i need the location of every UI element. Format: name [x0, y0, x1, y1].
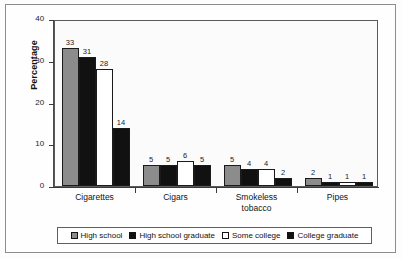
bar-group-bars: 5442: [217, 19, 298, 186]
bar-item[interactable]: 1: [339, 19, 356, 186]
bar-group: 33312814: [55, 19, 136, 186]
bar-group-bars: 2111: [298, 19, 379, 186]
bar-value-label: 1: [345, 172, 349, 181]
legend-item-label: College graduate: [297, 231, 358, 240]
x-axis-category-label: Pipes: [297, 192, 378, 203]
bar[interactable]: [322, 182, 339, 186]
bar-item[interactable]: 33: [62, 19, 79, 186]
bar-value-label: 14: [117, 118, 125, 127]
legend-item[interactable]: Some college: [222, 231, 280, 240]
bar-value-label: 5: [149, 155, 153, 164]
bar-value-label: 31: [83, 47, 91, 56]
bar[interactable]: [113, 128, 130, 186]
legend-item-label: High school graduate: [139, 231, 215, 240]
bar-value-label: 5: [166, 155, 170, 164]
bar-value-label: 2: [311, 168, 315, 177]
legend-swatch-icon: [129, 232, 136, 239]
legend-item[interactable]: High school graduate: [129, 231, 215, 240]
bar-item[interactable]: 28: [96, 19, 113, 186]
y-axis-tick-label: 10: [35, 139, 44, 148]
x-axis-tick-mark: [216, 188, 217, 193]
bar-value-label: 2: [281, 168, 285, 177]
bar-item[interactable]: 5: [194, 19, 211, 186]
bar-item[interactable]: 1: [356, 19, 373, 186]
bar-value-label: 1: [328, 172, 332, 181]
x-axis-tick-mark: [135, 188, 136, 193]
bar-value-label: 6: [183, 151, 187, 160]
chart-figure: Percentage 010203040 3331281455655442211…: [0, 0, 402, 259]
bar-item[interactable]: 2: [305, 19, 322, 186]
bar[interactable]: [258, 169, 275, 186]
legend-item-label: Some college: [232, 231, 280, 240]
y-axis-tick-label: 40: [35, 14, 44, 23]
bar-value-label: 33: [66, 38, 74, 47]
legend-item[interactable]: College graduate: [287, 231, 358, 240]
bar-item[interactable]: 5: [143, 19, 160, 186]
x-axis-tick-mark: [297, 188, 298, 193]
x-axis-category-label: Smokeless tobacco: [216, 192, 297, 214]
legend-swatch-icon: [71, 232, 78, 239]
bar-value-label: 4: [264, 159, 268, 168]
bar[interactable]: [224, 165, 241, 186]
bar-value-label: 4: [247, 159, 251, 168]
bar-item[interactable]: 5: [160, 19, 177, 186]
legend-swatch-icon: [222, 232, 229, 239]
bar[interactable]: [194, 165, 211, 186]
plot-area: 33312814556554422111: [54, 20, 378, 187]
bar-value-label: 28: [100, 59, 108, 68]
x-axis-category-label: Cigarettes: [54, 192, 135, 203]
bar[interactable]: [356, 182, 373, 186]
legend-swatch-icon: [287, 232, 294, 239]
bar[interactable]: [143, 165, 160, 186]
y-axis-tick-label: 30: [35, 56, 44, 65]
chart-legend: High schoolHigh school graduateSome coll…: [57, 227, 372, 244]
y-axis-tick-mark: [49, 187, 54, 188]
bar-item[interactable]: 6: [177, 19, 194, 186]
bar-groups-container: 33312814556554422111: [55, 21, 377, 186]
legend-item[interactable]: High school: [71, 231, 123, 240]
bar-group-bars: 33312814: [55, 19, 136, 186]
bar[interactable]: [96, 69, 113, 186]
bar-item[interactable]: 1: [322, 19, 339, 186]
y-axis-title: Percentage: [29, 25, 39, 105]
bar-group: 2111: [298, 19, 379, 186]
bar-group: 5565: [136, 19, 217, 186]
bar-item[interactable]: 2: [275, 19, 292, 186]
bar-item[interactable]: 4: [241, 19, 258, 186]
bar[interactable]: [160, 165, 177, 186]
bar[interactable]: [79, 57, 96, 186]
bar[interactable]: [339, 182, 356, 186]
bar[interactable]: [177, 161, 194, 186]
bar-item[interactable]: 4: [258, 19, 275, 186]
bar-value-label: 5: [200, 155, 204, 164]
bar-item[interactable]: 14: [113, 19, 130, 186]
x-axis-category-label: Cigars: [135, 192, 216, 203]
y-axis-tick-label: 0: [40, 181, 44, 190]
bar[interactable]: [275, 178, 292, 186]
bar[interactable]: [305, 178, 322, 186]
bar[interactable]: [241, 169, 258, 186]
bar-value-label: 5: [230, 155, 234, 164]
bar-group-bars: 5565: [136, 19, 217, 186]
bar-item[interactable]: 5: [224, 19, 241, 186]
bar-group: 5442: [217, 19, 298, 186]
bar[interactable]: [62, 48, 79, 186]
y-axis-tick-label: 20: [35, 98, 44, 107]
bar-item[interactable]: 31: [79, 19, 96, 186]
legend-item-label: High school: [81, 231, 123, 240]
bar-value-label: 1: [362, 172, 366, 181]
